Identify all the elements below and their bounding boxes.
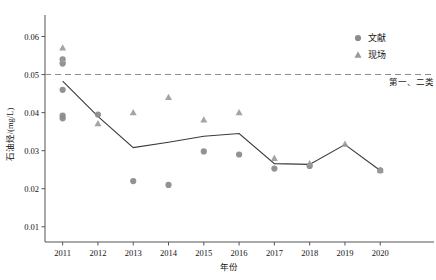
petroleum-hydrocarbon-scatter-chart: 0.010.020.030.040.050.06 201120122013201…	[0, 0, 436, 280]
x-tick-label: 2013	[125, 248, 142, 258]
y-tick-label: 0.06	[24, 32, 39, 42]
x-tick-label: 2018	[301, 248, 318, 258]
x-tick-label: 2011	[54, 248, 71, 258]
x-tick-label: 2017	[266, 248, 283, 258]
data-point-marker-circle	[236, 151, 242, 157]
y-tick-label: 0.01	[24, 222, 39, 232]
x-tick-label: 2020	[372, 248, 389, 258]
y-tick-label: 0.02	[24, 184, 39, 194]
y-tick-label: 0.05	[24, 70, 39, 80]
y-tick-label: 0.03	[24, 146, 39, 156]
data-point-marker-circle	[271, 165, 277, 171]
data-point-marker-circle	[60, 115, 66, 121]
y-axis-title: 石油烃/(mg/L)	[5, 108, 15, 162]
x-tick-label: 2015	[195, 248, 212, 258]
data-point-marker-circle	[60, 87, 66, 93]
threshold-annotation-label: 第一、二类	[389, 77, 434, 87]
legend-item-label: 文献	[368, 32, 386, 43]
data-point-marker-circle	[165, 182, 171, 188]
data-point-marker-circle	[95, 111, 101, 117]
x-tick-label: 2014	[160, 248, 178, 258]
x-axis-title: 年份	[220, 262, 238, 272]
data-point-marker-circle	[130, 178, 136, 184]
legend-item-label: 现场	[368, 50, 386, 60]
chart-container: 0.010.020.030.040.050.06 201120122013201…	[0, 0, 436, 280]
data-point-marker-circle	[201, 148, 207, 154]
x-tick-label: 2012	[89, 248, 106, 258]
y-tick-label: 0.04	[24, 108, 40, 118]
x-tick-label: 2019	[336, 248, 353, 258]
x-tick-label: 2016	[231, 248, 248, 258]
legend-marker-circle	[355, 35, 361, 41]
